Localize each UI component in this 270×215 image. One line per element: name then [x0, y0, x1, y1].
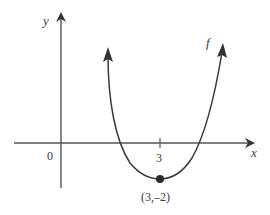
x-tick-label-3: 3 — [156, 151, 162, 165]
function-curve — [108, 52, 222, 179]
vertex-point — [156, 175, 164, 183]
parabola-graph: y x f 0 3 (3,–2) — [0, 0, 270, 215]
function-label: f — [206, 35, 212, 50]
origin-label: 0 — [47, 149, 53, 163]
vertex-label: (3,–2) — [141, 190, 170, 204]
y-axis-label: y — [41, 13, 49, 28]
x-axis-label: x — [250, 145, 257, 160]
